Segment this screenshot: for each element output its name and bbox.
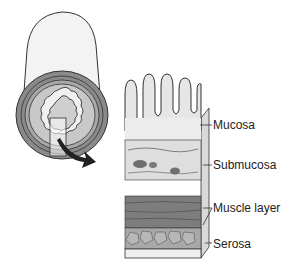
label-serosa: Serosa <box>213 237 251 251</box>
tube-illustration <box>16 12 108 168</box>
label-muscle-layer: Muscle layer <box>213 201 280 215</box>
label-mucosa: Mucosa <box>213 118 255 132</box>
tissue-block <box>125 74 209 258</box>
label-submucosa: Submucosa <box>213 158 276 172</box>
digestive-wall-diagram <box>0 0 296 277</box>
